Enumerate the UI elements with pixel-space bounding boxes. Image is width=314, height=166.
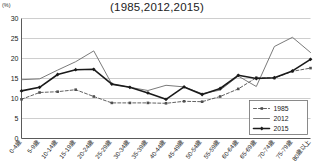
data-point-marker <box>38 91 41 94</box>
chart-legend: 198520122015 <box>250 101 308 135</box>
data-point-marker <box>20 89 24 93</box>
data-point-marker <box>237 88 240 91</box>
data-point-marker <box>74 88 77 91</box>
x-tick-label: 45-49歳 <box>166 138 185 160</box>
data-point-marker <box>146 91 150 95</box>
x-tick-label: 25-29歳 <box>94 138 113 160</box>
x-tick-label: 0-4歳 <box>8 138 23 154</box>
series-line-2012 <box>22 37 311 93</box>
chart-container: (%) (1985,2012,2015) 051015202530 0-4歳5-… <box>0 0 314 166</box>
series-line-2015 <box>22 59 311 99</box>
data-point-marker <box>183 100 186 103</box>
x-tick-label: 35-39歳 <box>130 138 149 160</box>
x-axis-category-labels: 0-4歳5-9歳10-14歳15-19歳20-24歳25-29歳30-34歳35… <box>8 138 312 162</box>
y-tick-label: 30 <box>11 15 19 22</box>
line-chart-plot: 051015202530 0-4歳5-9歳10-14歳15-19歳20-24歳2… <box>0 0 314 166</box>
data-point-marker <box>147 102 150 105</box>
x-tick-label: 20-24歳 <box>76 138 95 160</box>
x-tick-label: 65-69歳 <box>238 138 257 160</box>
y-tick-label: 15 <box>11 75 19 82</box>
data-point-marker <box>219 95 222 98</box>
data-point-marker <box>254 77 258 81</box>
x-tick-label: 70-74歳 <box>256 138 275 160</box>
data-point-marker <box>92 95 95 98</box>
legend-label-2012: 2012 <box>274 115 289 122</box>
data-point-marker <box>129 102 132 105</box>
legend-label-1985: 1985 <box>274 105 289 112</box>
x-tick-label: 55-59歳 <box>202 138 221 160</box>
x-tick-label: 40-44歳 <box>148 138 167 160</box>
x-tick-label: 30-34歳 <box>112 138 131 160</box>
data-point-marker <box>309 67 312 70</box>
data-point-marker <box>111 102 114 105</box>
legend-marker <box>261 107 264 110</box>
x-tick-label: 80歳以上 <box>290 138 311 162</box>
data-point-marker <box>165 102 168 105</box>
data-point-marker <box>128 85 132 89</box>
data-point-marker <box>201 100 204 103</box>
data-series-lines <box>20 37 313 104</box>
y-tick-label: 5 <box>15 115 19 122</box>
x-tick-label: 5-9歳 <box>26 138 41 154</box>
legend-label-2015: 2015 <box>274 125 289 132</box>
y-tick-label: 20 <box>11 55 19 62</box>
y-tick-label: 10 <box>11 95 19 102</box>
x-tick-label: 10-14歳 <box>39 138 58 160</box>
x-tick-label: 60-64歳 <box>220 138 239 160</box>
y-tick-label: 25 <box>11 35 19 42</box>
x-tick-label: 50-54歳 <box>184 138 203 160</box>
data-point-marker <box>56 90 59 93</box>
x-tick-label: 15-19歳 <box>58 138 77 160</box>
data-point-marker <box>20 98 23 101</box>
data-point-marker <box>74 68 78 72</box>
y-axis-tick-labels: 051015202530 <box>11 15 19 142</box>
